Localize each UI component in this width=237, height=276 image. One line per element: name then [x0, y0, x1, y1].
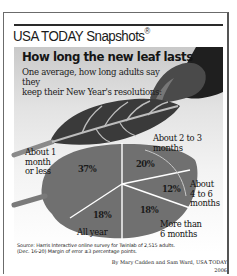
label-4-to-6-months: About 4 to 6 months [190, 180, 220, 209]
pct-more-than-6-months: 18% [140, 205, 158, 215]
pct-4-to-6-months: 12% [162, 184, 180, 194]
subtitle-line-1: One average, how long adults say they [22, 67, 172, 87]
label-all-year: All year [77, 228, 107, 238]
label-2-to-3-months: About 2 to 3 months [153, 134, 202, 153]
credit-line-1: By Mary Cadden and Sam Ward, USA TODAY [112, 258, 227, 266]
label-line: or less [25, 167, 56, 177]
pct-2-to-3-months: 20% [136, 159, 154, 169]
label-line: months [190, 199, 220, 209]
credit-year: 2006 [112, 266, 227, 274]
credit: By Mary Cadden and Sam Ward, USA TODAY 2… [112, 258, 227, 274]
source-note: Source: Harris Interactive online survey… [17, 242, 175, 254]
label-line: months [153, 144, 202, 154]
source-line-2: (Dec. 16-20) Margin of error ±3 percenta… [17, 248, 175, 254]
label-line: All year [77, 228, 107, 238]
pct-all-year: 18% [93, 210, 111, 220]
headline: How long the new leaf lasts [22, 49, 193, 64]
label-more-than-6-months: More than 6 months [160, 220, 202, 239]
label-1-month-or-less: About 1 month or less [25, 148, 56, 177]
subtitle-line-2: keep their New Year's resolutions: [22, 87, 172, 97]
label-line: 6 months [160, 230, 202, 240]
subtitle: One average, how long adults say they ke… [22, 67, 172, 97]
pct-1-month-or-less: 37% [78, 164, 96, 174]
